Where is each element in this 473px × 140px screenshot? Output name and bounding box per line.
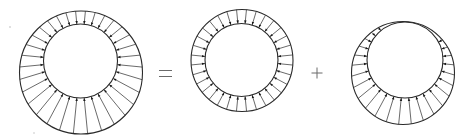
pressure-arrow xyxy=(20,65,44,67)
arrowhead-icon xyxy=(252,22,254,25)
scan-speck xyxy=(9,26,11,28)
pressure-arrow xyxy=(358,84,375,98)
pressure-arrow xyxy=(20,72,45,80)
arrowhead-icon xyxy=(439,40,442,43)
inner-circle xyxy=(205,24,278,97)
arrowhead-icon xyxy=(368,40,371,43)
total-loading-ring xyxy=(20,11,143,134)
pressure-arrow xyxy=(116,72,142,80)
arrowhead-icon xyxy=(441,47,444,49)
arrowhead-icon xyxy=(252,95,254,98)
arrowhead-icon xyxy=(276,70,279,72)
arrowhead-icon xyxy=(203,47,206,49)
arrowhead-icon xyxy=(441,71,444,73)
pressure-arrow xyxy=(429,89,443,105)
arrowhead-icon xyxy=(60,94,63,97)
arrowhead-icon xyxy=(91,22,93,25)
arrowhead-icon xyxy=(229,95,231,98)
arrowhead-icon xyxy=(68,22,70,25)
arrowhead-icon xyxy=(113,78,116,81)
uniform-loading-ring xyxy=(191,10,293,112)
arrowhead-icon xyxy=(42,72,45,74)
arrowhead-icon xyxy=(274,77,277,80)
pressure-arrow xyxy=(60,96,70,130)
pressure-arrow xyxy=(73,98,77,134)
arrowhead-icon xyxy=(392,96,394,99)
arrowhead-icon xyxy=(259,92,262,95)
arrowhead-icon xyxy=(276,47,279,49)
outer-circle xyxy=(20,11,143,134)
arrowhead-icon xyxy=(44,41,47,44)
arrowhead-icon xyxy=(222,92,225,95)
pressure-arrow xyxy=(117,65,142,67)
plus-sign xyxy=(312,68,323,79)
pressure-arrow xyxy=(117,55,140,57)
scan-speck xyxy=(33,132,34,133)
arrowhead-icon xyxy=(91,96,93,99)
arrowhead-icon xyxy=(116,72,119,74)
pressure-arrow xyxy=(386,96,394,121)
pressure-arrow xyxy=(98,94,114,125)
inner-circle xyxy=(367,22,443,98)
arrowhead-icon xyxy=(98,25,101,28)
arrowhead-icon xyxy=(439,78,442,81)
arrowhead-icon xyxy=(113,41,116,44)
arrowhead-icon xyxy=(259,24,262,27)
arrowhead-icon xyxy=(385,94,388,97)
ring-decomposition-diagram xyxy=(0,0,473,140)
arrowhead-icon xyxy=(60,25,63,28)
pressure-arrow xyxy=(23,78,48,91)
arrowhead-icon xyxy=(206,77,209,80)
pressure-arrow xyxy=(22,55,44,57)
pressure-arrow xyxy=(91,96,101,130)
pressure-arrow xyxy=(416,96,423,120)
arrowhead-icon xyxy=(423,94,426,97)
arrowhead-icon xyxy=(365,47,368,49)
pressure-arrow xyxy=(113,78,139,92)
arrowhead-icon xyxy=(206,40,209,43)
arrowhead-icon xyxy=(44,78,47,81)
outer-circle xyxy=(352,22,455,125)
arrowhead-icon xyxy=(98,94,101,97)
arrowhead-icon xyxy=(42,48,45,50)
arrowhead-icon xyxy=(116,48,119,50)
eccentric-loading-ring xyxy=(352,22,455,125)
pressure-arrow xyxy=(399,98,402,125)
arrowhead-icon xyxy=(368,78,371,81)
pressure-arrow xyxy=(423,94,434,115)
pressure-arrow xyxy=(409,98,412,124)
pressure-arrow xyxy=(365,89,380,108)
arrowhead-icon xyxy=(203,70,206,72)
pressure-arrow xyxy=(84,98,88,134)
inner-circle xyxy=(44,24,118,98)
arrowhead-icon xyxy=(365,71,368,73)
equals-sign xyxy=(159,71,172,77)
arrowhead-icon xyxy=(229,22,231,25)
arrowhead-icon xyxy=(68,96,70,99)
pressure-arrow xyxy=(375,94,387,117)
arrowhead-icon xyxy=(416,96,418,99)
arrowhead-icon xyxy=(274,40,277,43)
arrowhead-icon xyxy=(222,24,225,27)
pressure-arrow xyxy=(47,94,63,124)
